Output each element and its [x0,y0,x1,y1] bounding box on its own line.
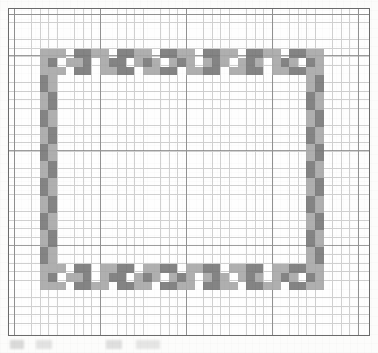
stitch-cell [306,221,315,230]
stitch-cell [220,282,229,291]
stitch-cell [246,67,255,76]
stitch-cell [306,178,315,187]
stitch-cell [263,282,272,291]
stitch-cell [186,49,195,58]
stitch-cell [238,264,247,273]
stitch-cell [315,135,324,144]
stitch-cell [272,273,281,282]
stitch-cell [272,282,281,291]
stitch-cell [48,187,57,196]
stitch-cell [306,239,315,248]
stitch-cell [306,144,315,153]
stitch-cell [203,273,212,282]
stitch-pattern-layer [9,9,369,335]
stitch-cell [212,273,221,282]
stitch-cell [289,67,298,76]
stitch-cell [203,67,212,76]
stitch-cell [212,282,221,291]
stitch-cell [48,49,57,58]
stitch-cell [169,58,178,67]
stitch-cell [203,282,212,291]
stitch-cell [48,92,57,101]
stitch-cell [134,49,143,58]
stitch-cell [306,213,315,222]
stitch-cell [40,58,49,67]
stitch-cell [306,273,315,282]
stitch-cell [306,101,315,110]
stitch-cell [143,67,152,76]
stitch-cell [48,58,57,67]
stitch-cell [246,264,255,273]
stitch-cell [315,273,324,282]
stitch-cell [272,58,281,67]
stitch-cell [281,264,290,273]
stitch-cell [306,230,315,239]
stitch-cell [306,135,315,144]
stitch-cell [40,273,49,282]
stitch-cell [229,67,238,76]
stitch-cell [48,118,57,127]
stitch-cell [306,49,315,58]
stitch-cell [186,264,195,273]
stitch-cell [315,67,324,76]
stitch-cell [255,282,264,291]
stitch-cell [238,58,247,67]
stitch-cell [315,161,324,170]
stitch-cell [40,161,49,170]
stitch-cell [246,58,255,67]
stitch-cell [315,110,324,119]
stitch-cell [289,49,298,58]
stitch-cell [40,49,49,58]
stitch-cell [40,101,49,110]
stitch-cell [315,178,324,187]
stitch-cell [177,282,186,291]
stitch-cell [143,49,152,58]
stitch-cell [298,264,307,273]
stitch-cell [48,221,57,230]
stitch-cell [134,273,143,282]
stitch-cell [315,230,324,239]
stitch-cell [83,58,92,67]
stitch-cell [40,230,49,239]
stitch-cell [57,67,66,76]
stitch-cell [40,75,49,84]
stitch-cell [315,144,324,153]
stitch-cell [143,264,152,273]
stitch-cell [126,264,135,273]
stitch-cell [255,67,264,76]
stitch-cell [306,58,315,67]
stitch-cell [298,67,307,76]
stitch-cell [315,264,324,273]
stitch-cell [83,264,92,273]
stitch-cell [100,67,109,76]
stitch-cell [306,256,315,265]
stitch-cell [134,282,143,291]
stitch-cell [40,118,49,127]
stitch-cell [40,256,49,265]
stitch-cell [40,84,49,93]
stitch-cell [134,58,143,67]
stitch-cell [109,273,118,282]
stitch-cell [306,170,315,179]
stitch-cell [298,282,307,291]
stitch-cell [255,49,264,58]
stitch-cell [298,49,307,58]
stitch-cell [315,187,324,196]
stitch-cell [315,170,324,179]
stitch-cell [117,264,126,273]
stitch-cell [289,273,298,282]
stitch-cell [272,67,281,76]
stitch-cell [306,153,315,162]
stitch-cell [48,127,57,136]
stitch-cell [315,92,324,101]
stitch-cell [48,282,57,291]
stitch-cell [255,264,264,273]
stitch-cell [315,221,324,230]
stitch-cell [109,67,118,76]
stitch-cell [306,67,315,76]
stitch-cell [109,264,118,273]
stitch-cell [289,282,298,291]
stitch-cell [57,264,66,273]
stitch-cell [186,282,195,291]
stitch-cell [66,58,75,67]
